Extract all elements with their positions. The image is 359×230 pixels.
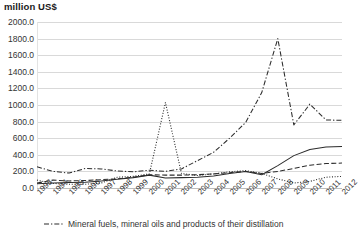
- x-tick-label: 1994: [51, 177, 70, 196]
- x-tick-label: 2002: [179, 177, 198, 196]
- x-tick-label: 1995: [67, 177, 86, 196]
- legend-line-swatch: [44, 221, 64, 227]
- x-tick-label: 1999: [131, 177, 150, 196]
- legend-label: Mineral fuels, mineral oils and products…: [68, 219, 283, 229]
- x-tick-label: 1997: [99, 177, 118, 196]
- x-tick-label: 2001: [163, 177, 182, 196]
- x-tick-label: 2012: [340, 177, 359, 196]
- x-tick-label: 2008: [276, 177, 295, 196]
- x-tick-label: 2009: [292, 177, 311, 196]
- legend-item: Mineral fuels, mineral oils and products…: [44, 219, 283, 229]
- x-tick-label: 2007: [260, 177, 279, 196]
- x-tick-label: 1998: [115, 177, 134, 196]
- x-tick-label: 2010: [308, 177, 327, 196]
- x-tick-label: 1993: [35, 177, 54, 196]
- x-tick-label: 2005: [228, 177, 247, 196]
- x-tick-label: 2000: [147, 177, 166, 196]
- x-tick-label: 2003: [196, 177, 215, 196]
- x-tick-label: 2011: [324, 178, 343, 197]
- chart-legend: Mineral fuels, mineral oils and products…: [0, 219, 351, 230]
- x-tick-label: 2004: [212, 177, 231, 196]
- x-tick-label: 1996: [83, 177, 102, 196]
- x-tick-label: 2006: [244, 177, 263, 196]
